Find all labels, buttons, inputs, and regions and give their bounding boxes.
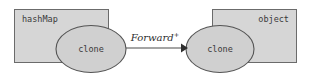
hashmap-container-label: hashMap: [22, 14, 58, 24]
object-container-label: object: [258, 14, 289, 24]
forward-edge-label: Forward+: [130, 31, 179, 43]
object-graph-diagram: hashMap object clone clone Forward+: [0, 0, 311, 79]
forward-edge-label-text: Forward: [130, 32, 174, 43]
object-clone-label: clone: [207, 44, 233, 54]
forward-edge-label-superscript: +: [174, 31, 179, 39]
hashmap-clone-label: clone: [78, 44, 104, 54]
diagram-canvas: hashMap object clone clone Forward+: [0, 0, 311, 79]
